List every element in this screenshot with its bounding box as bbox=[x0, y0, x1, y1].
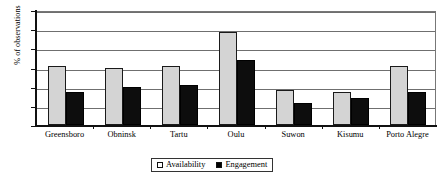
bar-availability bbox=[276, 90, 294, 125]
bar-availability bbox=[162, 66, 180, 125]
bar-engagement bbox=[180, 85, 198, 125]
bar-availability bbox=[219, 32, 237, 125]
x-axis-tick-mark bbox=[379, 125, 380, 129]
x-axis-tick-mark bbox=[150, 125, 151, 129]
x-axis-category-label: Porto Alegre bbox=[379, 130, 436, 140]
plot-area bbox=[36, 11, 436, 126]
y-axis-line bbox=[35, 10, 37, 127]
gridline bbox=[37, 12, 435, 13]
x-axis-category-label: Tartu bbox=[150, 130, 207, 140]
bar-availability bbox=[333, 92, 351, 125]
legend-swatch-availability-icon bbox=[157, 162, 163, 168]
legend-item-engagement: Engagement bbox=[216, 160, 267, 169]
bar-engagement bbox=[123, 87, 141, 125]
bar-engagement bbox=[408, 92, 426, 125]
bar-engagement bbox=[294, 103, 312, 125]
x-axis-tick-mark bbox=[322, 125, 323, 129]
legend-swatch-engagement-icon bbox=[216, 162, 222, 168]
x-axis-tick-mark bbox=[93, 125, 94, 129]
x-axis-category-label: Greensboro bbox=[36, 130, 93, 140]
bar-engagement bbox=[237, 60, 255, 125]
legend-label-engagement: Engagement bbox=[225, 160, 267, 169]
bar-engagement bbox=[66, 92, 84, 125]
x-axis-category-label: Kisumu bbox=[322, 130, 379, 140]
legend-item-availability: Availability bbox=[157, 160, 205, 169]
x-axis-tick-mark bbox=[207, 125, 208, 129]
x-axis-tick-mark bbox=[265, 125, 266, 129]
x-axis-line bbox=[35, 125, 437, 127]
bar-chart-figure: % of observations 051015202530 Greensbor… bbox=[0, 0, 445, 183]
bar-engagement bbox=[351, 98, 369, 125]
y-axis-title: % of observations bbox=[11, 0, 25, 95]
bar-availability bbox=[105, 68, 123, 125]
x-axis-category-label: Suwon bbox=[265, 130, 322, 140]
x-axis-category-label: Oulu bbox=[207, 130, 264, 140]
bar-availability bbox=[390, 66, 408, 125]
legend-label-availability: Availability bbox=[166, 160, 205, 169]
x-axis-category-label: Obninsk bbox=[93, 130, 150, 140]
bar-availability bbox=[48, 66, 66, 125]
chart-legend: Availability Engagement bbox=[151, 158, 273, 172]
